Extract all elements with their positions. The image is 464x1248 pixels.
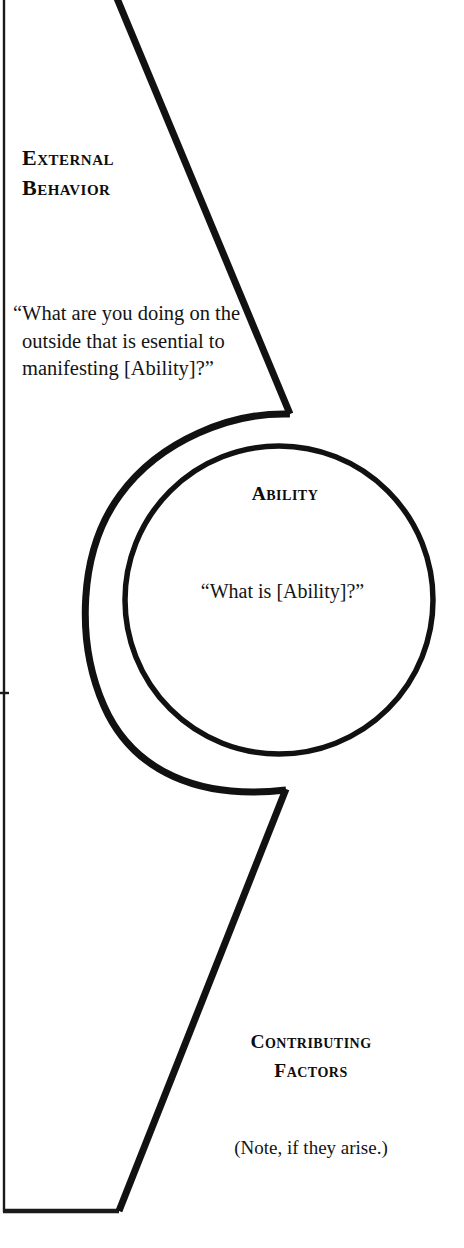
external-behavior-heading-line-1: External (22, 143, 232, 173)
external-behavior-heading: External Behavior (22, 143, 232, 203)
external-behavior-question: “What are you doing on the outside that … (22, 300, 247, 383)
ability-question: “What is [Ability]?” (150, 578, 415, 604)
contributing-factors-heading: Contributing Factors (196, 1027, 426, 1085)
ability-heading: Ability (180, 482, 390, 506)
contributing-factors-heading-line-2: Factors (196, 1056, 426, 1085)
contributing-factors-heading-line-1: Contributing (196, 1027, 426, 1056)
diagram-page: External Behavior “What are you doing on… (0, 0, 464, 1248)
external-behavior-heading-line-2: Behavior (22, 173, 232, 203)
contributing-factors-note: (Note, if they arise.) (186, 1136, 436, 1160)
